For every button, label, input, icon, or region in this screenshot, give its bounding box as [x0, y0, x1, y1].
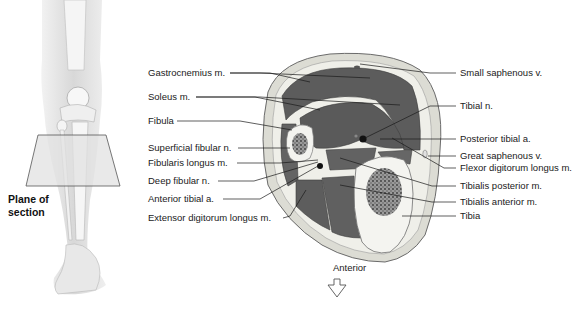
- arrow-down-outline-icon: [328, 279, 346, 297]
- label-gastrocnemius: Gastrocnemius m.: [148, 67, 225, 78]
- label-soleus: Soleus m.: [148, 91, 190, 102]
- label-fibularis-longus: Fibularis longus m.: [148, 157, 228, 168]
- cross-section: [263, 53, 441, 262]
- label-superficial-fibular-n: Superficial fibular n.: [148, 142, 231, 153]
- plane-of-section-label: Plane of section: [8, 193, 49, 219]
- label-deep-fibular-n: Deep fibular n.: [148, 175, 210, 186]
- label-flexor-digitorum-longus: Flexor digitorum longus m.: [460, 162, 572, 173]
- leg-illustration: [26, 0, 120, 294]
- label-anterior-tibial-a: Anterior tibial a.: [148, 193, 214, 204]
- label-fibula: Fibula: [148, 115, 174, 126]
- label-small-saphenous-v: Small saphenous v.: [460, 67, 542, 78]
- label-posterior-tibial-a: Posterior tibial a.: [460, 133, 531, 144]
- anterior-label: Anterior: [333, 262, 366, 273]
- label-great-saphenous-v: Great saphenous v.: [460, 150, 542, 161]
- plane-label-line2: section: [8, 206, 49, 219]
- label-tibialis-posterior: Tibialis posterior m.: [460, 180, 542, 191]
- label-tibia: Tibia: [460, 210, 480, 221]
- label-tibialis-anterior: Tibialis anterior m.: [460, 196, 537, 207]
- label-extensor-digitorum-longus: Extensor digitorum longus m.: [148, 212, 271, 223]
- label-tibial-n: Tibial n.: [460, 100, 493, 111]
- section-plane: [26, 135, 120, 186]
- plane-label-line1: Plane of: [8, 193, 49, 206]
